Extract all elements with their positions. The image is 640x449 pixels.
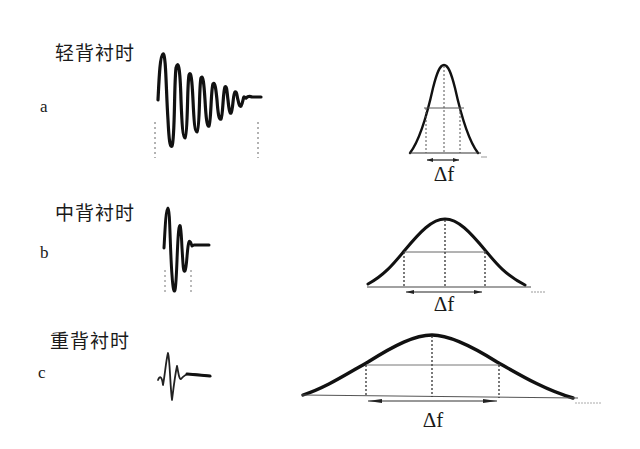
spectrum-c-wide (302, 335, 602, 403)
spectrum-b-medium (367, 219, 546, 294)
spectrum-a-narrow (409, 65, 487, 162)
waveform-a-light-backing (158, 54, 261, 146)
waveform-c-heavy-backing (158, 353, 210, 400)
waveform-b-medium-backing (164, 208, 209, 291)
